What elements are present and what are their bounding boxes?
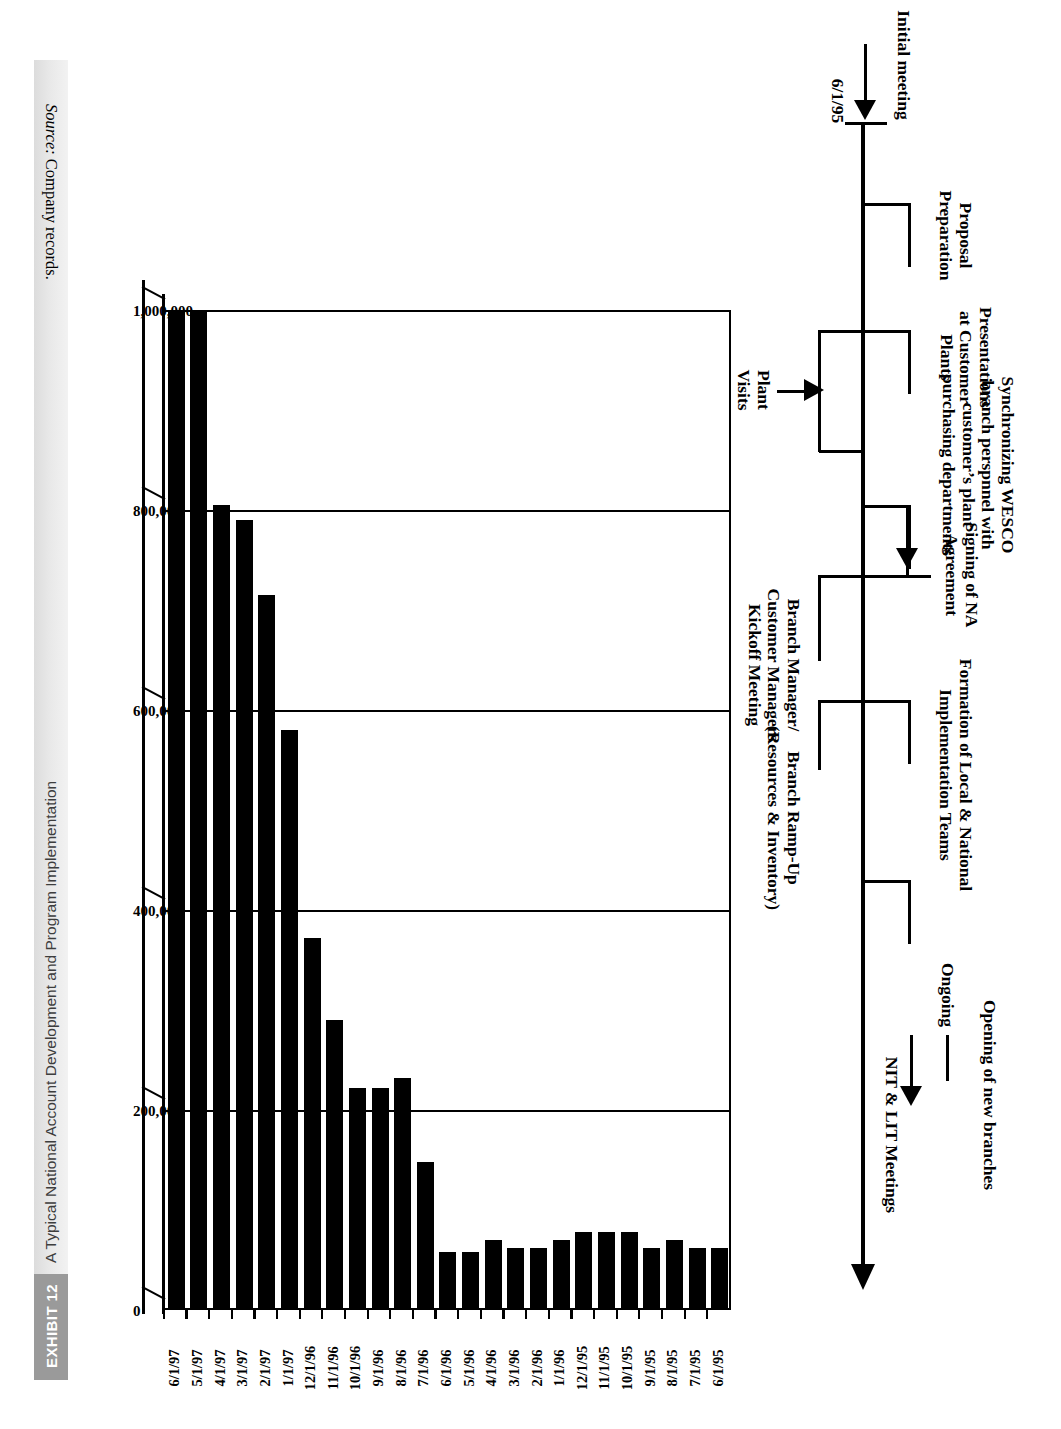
chart-axis-base-front xyxy=(163,294,166,1314)
timeline-tick-b2 xyxy=(819,450,865,453)
timeline-tick-4-bracket xyxy=(908,700,911,764)
nit-lit-arrow-icon xyxy=(900,1086,922,1106)
chart-value-tick-label: 1,000,000 xyxy=(133,303,193,320)
chart-category-label: 9/1/95 xyxy=(642,1326,659,1410)
chart-category-label: 8/1/95 xyxy=(664,1326,681,1410)
timeline-tick-2-bracket xyxy=(908,330,911,394)
chart-category-label: 9/1/96 xyxy=(370,1326,387,1410)
chart-category-label: 5/1/96 xyxy=(461,1326,478,1410)
chart-value-tick-label: 200,000 xyxy=(133,1103,182,1120)
chart-bar xyxy=(236,520,253,1310)
chart-category-tick xyxy=(321,1310,323,1319)
chart-category-label: 11/1/96 xyxy=(325,1326,342,1410)
chart-category-tick xyxy=(457,1310,459,1319)
chart-category-tick xyxy=(548,1310,550,1319)
chart-category-tick xyxy=(208,1310,210,1319)
chart-bar xyxy=(711,1248,728,1310)
chart-category-tick xyxy=(412,1310,414,1319)
signing-marker-stem xyxy=(865,575,931,578)
chart-bar xyxy=(372,1088,389,1310)
source-prefix: Source: xyxy=(42,104,61,155)
chart-bar xyxy=(462,1252,479,1310)
chart-axis-slant xyxy=(142,286,166,300)
chart-bar xyxy=(349,1088,366,1310)
chart-category-tick xyxy=(684,1310,686,1319)
chart-category-label: 1/1/96 xyxy=(551,1326,568,1410)
signing-marker-arrow-icon xyxy=(896,548,918,568)
chart-category-label: 4/1/97 xyxy=(212,1326,229,1410)
timeline-arrow-icon xyxy=(851,1264,875,1290)
source-note: Source: Company records. xyxy=(41,104,61,280)
timeline-tick-1-bracket xyxy=(908,203,911,267)
chart-category-label: 1/1/97 xyxy=(280,1326,297,1410)
timeline-start-date: 6/1/95 xyxy=(828,66,848,136)
chart-gridline xyxy=(165,310,731,312)
chart-value-tick-label: 0 xyxy=(133,1303,141,1320)
chart-category-label: 7/1/96 xyxy=(415,1326,432,1410)
ongoing-dash xyxy=(946,1035,949,1081)
chart-category-label: 2/1/97 xyxy=(257,1326,274,1410)
ramp-up-bracket xyxy=(818,700,821,770)
chart-category-tick xyxy=(389,1310,391,1319)
timeline-tick-5-bracket xyxy=(908,880,911,944)
chart-bar xyxy=(598,1232,615,1310)
page-content: 6/1/95 Initial meeting Signing of NA Agr… xyxy=(0,0,1061,1429)
chart-category-label: 12/1/96 xyxy=(302,1326,319,1410)
chart-category-tick xyxy=(616,1310,618,1319)
chart-category-label: 3/1/97 xyxy=(234,1326,251,1410)
timeline-tick-2 xyxy=(865,330,911,333)
chart-bar xyxy=(281,730,298,1310)
milestone-nit-lit-meetings: NIT & LIT Meetings xyxy=(882,1010,902,1260)
chart-category-tick xyxy=(480,1310,482,1319)
chart-bar xyxy=(440,1252,457,1310)
chart-category-tick xyxy=(593,1310,595,1319)
chart-category-tick xyxy=(253,1310,255,1319)
milestone-plant-visits: Plant Visits xyxy=(734,320,773,460)
chart-category-label: 8/1/96 xyxy=(393,1326,410,1410)
chart-bar xyxy=(530,1248,547,1310)
chart-category-tick xyxy=(367,1310,369,1319)
chart-category-label: 6/1/96 xyxy=(438,1326,455,1410)
kickoff-bracket xyxy=(818,575,821,661)
chart-category-label: 2/1/96 xyxy=(529,1326,546,1410)
timeline-axis xyxy=(862,122,866,1270)
chart-axis-base-back xyxy=(143,280,146,1314)
milestone-branch-ramp-up: Branch Ramp-Up (Resources & Inventory) xyxy=(764,678,803,958)
chart-category-tick xyxy=(706,1310,708,1319)
chart-category-label: 7/1/95 xyxy=(687,1326,704,1410)
chart-category-tick xyxy=(344,1310,346,1319)
timeline-tick-b4 xyxy=(819,700,865,703)
chart-bar xyxy=(417,1162,434,1310)
chart-category-tick xyxy=(299,1310,301,1319)
chart-bar xyxy=(258,595,275,1310)
chart-category-tick xyxy=(525,1310,527,1319)
chart-bar xyxy=(666,1240,683,1310)
chart-category-label: 11/1/95 xyxy=(596,1326,613,1410)
chart-category-label: 5/1/97 xyxy=(189,1326,206,1410)
chart-category-tick xyxy=(163,1310,165,1319)
timeline-tick-3 xyxy=(865,505,911,508)
chart-category-tick xyxy=(185,1310,187,1319)
initial-meeting-label: Initial meeting xyxy=(894,0,914,140)
chart-bar xyxy=(689,1248,706,1310)
chart-category-tick xyxy=(502,1310,504,1319)
milestone-synchronizing-wesco: Synchronizing WESCO branch perspnnel wit… xyxy=(939,330,1017,600)
chart-value-tick-label: 800,000 xyxy=(133,503,182,520)
chart-category-label: 6/1/97 xyxy=(166,1326,183,1410)
initial-meeting-stem xyxy=(864,44,867,104)
chart-category-tick xyxy=(661,1310,663,1319)
chart-category-label: 10/1/96 xyxy=(347,1326,364,1410)
chart-bar xyxy=(507,1248,524,1310)
chart-gridline xyxy=(165,510,731,512)
chart-bar xyxy=(485,1240,502,1310)
plant-visits-arrow-icon xyxy=(804,379,824,401)
timeline-start-tick xyxy=(845,122,887,125)
bar-chart: 6/1/957/1/958/1/959/1/9510/1/9511/1/9512… xyxy=(91,104,731,1352)
chart-bar xyxy=(213,505,230,1310)
chart-category-label: 10/1/95 xyxy=(619,1326,636,1410)
source-text: Company records. xyxy=(42,155,61,280)
chart-category-tick xyxy=(638,1310,640,1319)
chart-value-tick-label: 400,000 xyxy=(133,903,182,920)
chart-category-tick xyxy=(276,1310,278,1319)
chart-bar xyxy=(643,1248,660,1310)
